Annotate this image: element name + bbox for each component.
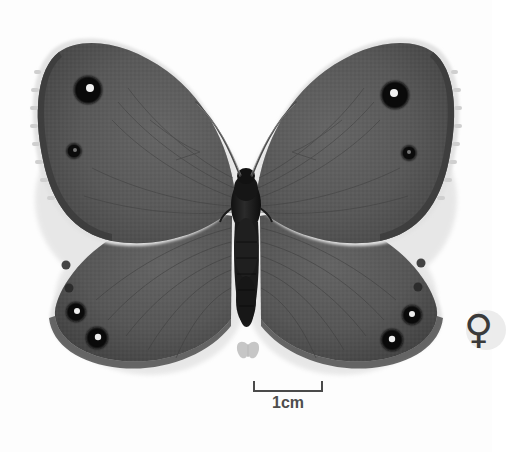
sex-symbol-badge: ♀ xyxy=(466,310,506,354)
scale-bar-label: 1cm xyxy=(253,394,323,412)
butterfly-icon xyxy=(236,341,260,362)
female-symbol-icon: ♀ xyxy=(464,306,508,354)
scale-bar-line xyxy=(253,381,323,392)
scale-bar: 1cm xyxy=(253,381,323,412)
